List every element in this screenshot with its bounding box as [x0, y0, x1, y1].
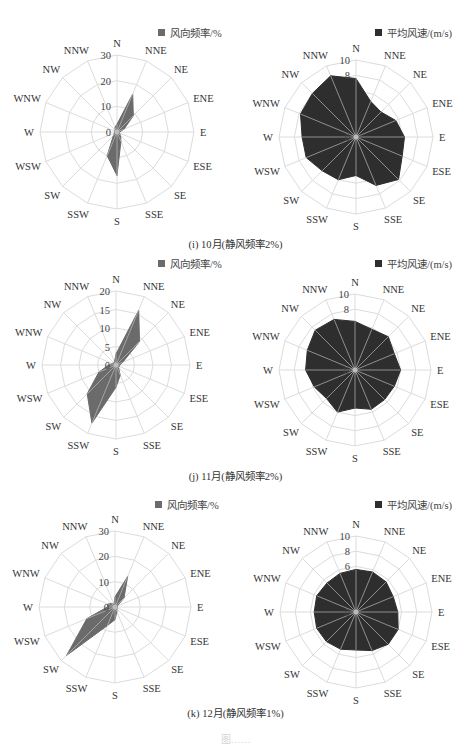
direction-label: NW: [282, 69, 300, 80]
grid-spoke: [116, 365, 168, 417]
direction-label: W: [26, 360, 36, 371]
direction-label: SE: [174, 190, 186, 201]
direction-label: E: [437, 365, 443, 376]
direction-label: NNW: [64, 281, 89, 292]
direction-label: WSW: [254, 399, 280, 410]
direction-label: SSE: [383, 446, 401, 457]
direction-label: SSE: [143, 683, 161, 694]
direction-label: SW: [45, 421, 61, 432]
legend-speed-nov: 平均风速/(m/s): [375, 256, 452, 271]
tick-label: 15: [100, 305, 111, 316]
direction-label: WNW: [12, 568, 39, 579]
direction-label: WNW: [15, 327, 42, 338]
tick-label: 10: [101, 101, 112, 112]
center-dot: [354, 135, 359, 140]
direction-label: ESE: [190, 636, 209, 647]
legend-swatch-icon: [155, 501, 162, 508]
direction-label: SW: [44, 190, 60, 201]
direction-label: S: [113, 446, 119, 457]
direction-label: N: [352, 519, 360, 530]
direction-label: WNW: [13, 93, 40, 104]
direction-label: WSW: [14, 636, 40, 647]
direction-label: E: [197, 602, 203, 613]
direction-label: WSW: [17, 393, 43, 404]
grid-spoke: [64, 313, 116, 365]
legend-speed-oct: 平均风速/(m/s): [375, 25, 452, 40]
tick-label: 8: [344, 304, 349, 315]
tick-label: 10: [339, 289, 350, 300]
center-dot: [113, 605, 118, 610]
direction-label: NW: [43, 64, 61, 75]
direction-label: W: [263, 132, 273, 143]
direction-label: SSE: [384, 688, 402, 699]
direction-label: S: [352, 453, 358, 464]
direction-label: W: [263, 365, 273, 376]
radar-chart-5: NNNENEENEEESESESSESSSWSWWSWWWNWNWNNW0681…: [253, 519, 451, 706]
legend-label: 平均风速/(m/s): [387, 497, 452, 512]
legend-swatch-icon: [375, 260, 382, 267]
direction-label: SE: [412, 669, 424, 680]
tick-label: 20: [100, 286, 111, 297]
direction-label: NNE: [143, 521, 165, 532]
direction-label: W: [23, 602, 33, 613]
tick-label: 10: [340, 55, 351, 66]
legend-frequency-nov: 风向频率/%: [158, 256, 222, 271]
direction-label: S: [112, 690, 118, 701]
center-dot: [114, 363, 119, 368]
tick-label: 10: [99, 577, 110, 588]
direction-label: WNW: [252, 98, 279, 109]
direction-label: SE: [171, 664, 183, 675]
center-dot: [115, 130, 120, 135]
direction-label: SE: [171, 421, 183, 432]
direction-label: ESE: [430, 399, 449, 410]
legend-frequency-dec: 风向频率/%: [155, 497, 219, 512]
caption-october: (i) 10月(静风频率2%): [0, 236, 471, 251]
direction-label: ESE: [190, 393, 209, 404]
direction-label: ESE: [431, 641, 450, 652]
direction-label: ENE: [190, 568, 210, 579]
tick-label: 0: [106, 127, 111, 138]
tick-label: 10: [100, 323, 111, 334]
direction-label: NNW: [303, 50, 328, 61]
direction-label: WNW: [252, 331, 279, 342]
direction-label: ENE: [193, 93, 213, 104]
direction-label: SSW: [68, 440, 90, 451]
legend-frequency-oct: 风向频率/%: [158, 25, 222, 40]
direction-label: NW: [41, 540, 59, 551]
direction-label: ENE: [432, 98, 452, 109]
direction-label: SW: [283, 195, 299, 206]
direction-label: N: [113, 38, 121, 49]
direction-label: N: [352, 43, 360, 54]
tick-label: 0: [345, 607, 350, 618]
direction-label: SSW: [306, 214, 328, 225]
direction-label: ENE: [190, 327, 210, 338]
direction-label: WSW: [255, 641, 281, 652]
direction-label: NNE: [143, 281, 165, 292]
radar-chart-0: NNNENEENEEESESESSESSSWSWWSWWWNWNWNNW0102…: [13, 38, 213, 227]
radar-chart-3: NNNENEENEEESESESSESSSWSWWSWWWNWNWNNW0810: [252, 277, 450, 464]
tick-label: 30: [101, 50, 112, 61]
direction-label: E: [439, 132, 445, 143]
direction-label: NE: [412, 545, 426, 556]
direction-label: N: [111, 514, 119, 525]
direction-label: SSE: [384, 214, 402, 225]
direction-label: NE: [171, 299, 185, 310]
direction-label: NE: [171, 540, 185, 551]
tick-label: 10: [340, 531, 351, 542]
tick-label: 0: [344, 365, 349, 376]
direction-label: NNW: [64, 45, 89, 56]
data-area: [301, 76, 405, 186]
radar-chart-4: NNNENEENEEESESESSESSSWSWWSWWWNWNWNNW0102…: [12, 514, 210, 701]
direction-label: SW: [283, 427, 299, 438]
direction-label: NNE: [384, 50, 406, 61]
legend-label: 风向频率/%: [170, 25, 222, 40]
grid-spoke: [117, 132, 171, 186]
direction-label: ENE: [430, 331, 450, 342]
direction-label: WNW: [253, 573, 280, 584]
legend-swatch-icon: [158, 260, 165, 267]
legend-label: 风向频率/%: [170, 256, 222, 271]
direction-label: SW: [284, 669, 300, 680]
direction-label: NNW: [303, 526, 328, 537]
tick-label: 5: [105, 342, 110, 353]
